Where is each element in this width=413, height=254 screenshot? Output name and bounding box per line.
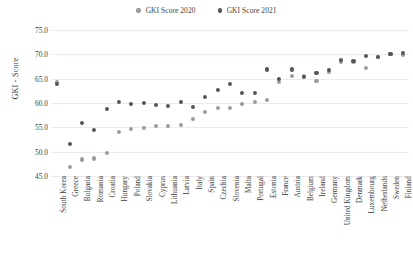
- data-point: [240, 91, 244, 95]
- data-point: [228, 106, 232, 110]
- y-axis-title: GKI - Score: [11, 44, 20, 114]
- data-point: [364, 66, 368, 70]
- data-point: [253, 91, 257, 95]
- data-point: [191, 117, 195, 121]
- x-tick-poland: Poland: [134, 176, 142, 196]
- x-tick-croatia: Croatia: [109, 176, 117, 198]
- data-point: [92, 156, 96, 160]
- data-point: [142, 126, 146, 130]
- legend-label-gki-2020: GKI Score 2020: [146, 6, 196, 15]
- data-point: [80, 121, 84, 125]
- x-tick-greece: Greece: [72, 176, 80, 197]
- data-point: [166, 104, 170, 108]
- x-tick-luxembourg: Luxembourg: [368, 176, 376, 214]
- legend-item-gki-2021[interactable]: GKI Score 2021: [218, 6, 277, 15]
- x-tick-malta: Malta: [245, 176, 253, 193]
- x-tick-united-kingdom: United Kingdom: [344, 176, 352, 225]
- data-point: [142, 101, 146, 105]
- x-tick-latvia: Latvia: [183, 176, 191, 195]
- data-point: [376, 55, 380, 59]
- gridline: [51, 127, 409, 128]
- legend-label-gki-2021: GKI Score 2021: [227, 6, 277, 15]
- x-tick-denmark: Denmark: [356, 176, 364, 203]
- y-tick-60-0: 60.0: [22, 99, 48, 108]
- x-tick-czechia: Czechia: [220, 176, 228, 200]
- x-tick-hungary: Hungary: [121, 176, 129, 202]
- data-point: [216, 88, 220, 92]
- x-tick-austria: Austria: [294, 176, 302, 198]
- x-axis-tick-labels: South KoreaGreeceBulgariaRomaniaCroatiaH…: [51, 176, 409, 254]
- data-point: [364, 54, 368, 58]
- x-tick-romania: Romania: [97, 176, 105, 202]
- gridline: [51, 103, 409, 104]
- y-tick-70-0: 70.0: [22, 50, 48, 59]
- data-point: [290, 67, 294, 71]
- x-tick-south-korea: South Korea: [60, 176, 68, 213]
- x-tick-finland: Finland: [405, 176, 413, 198]
- data-point: [290, 74, 294, 78]
- gridline: [51, 79, 409, 80]
- x-tick-france: France: [282, 176, 290, 196]
- x-tick-lithuania: Lithuania: [171, 176, 179, 204]
- data-point: [80, 157, 84, 161]
- data-point: [67, 142, 71, 146]
- x-tick-ireland: Ireland: [319, 176, 327, 197]
- chart-legend: GKI Score 2020 GKI Score 2021: [0, 6, 413, 15]
- data-point: [265, 98, 269, 102]
- data-point: [129, 127, 133, 131]
- data-point: [117, 130, 121, 134]
- data-point: [265, 67, 269, 71]
- x-tick-estonia: Estonia: [270, 176, 278, 198]
- y-axis-tick-labels: 45.050.055.060.065.070.075.0: [22, 30, 48, 176]
- legend-marker-gki-2021: [218, 8, 222, 12]
- x-tick-cyprus: Cyprus: [159, 176, 167, 197]
- x-tick-italy: Italy: [196, 176, 204, 189]
- data-point: [203, 95, 207, 99]
- data-point: [55, 81, 59, 85]
- x-tick-germany: Germany: [331, 176, 339, 203]
- x-tick-sweden: Sweden: [393, 176, 401, 199]
- y-tick-75-0: 75.0: [22, 26, 48, 35]
- x-tick-spain: Spain: [208, 176, 216, 193]
- data-point: [314, 79, 318, 83]
- plot-area: [51, 30, 409, 176]
- data-point: [314, 71, 318, 75]
- x-tick-belgium: Belgium: [307, 176, 315, 201]
- data-point: [105, 107, 109, 111]
- data-point: [240, 102, 244, 106]
- y-tick-50-0: 50.0: [22, 147, 48, 156]
- gridline: [51, 54, 409, 55]
- data-point: [67, 165, 71, 169]
- x-tick-slovakia: Slovakia: [146, 176, 154, 202]
- data-point: [92, 128, 96, 132]
- x-tick-netherlands: Netherlands: [381, 176, 389, 211]
- scatter-chart: GKI Score 2020 GKI Score 2021 GKI - Scor…: [0, 0, 413, 254]
- data-point: [191, 105, 195, 109]
- x-tick-slovenia: Slovenia: [233, 176, 241, 202]
- data-point: [216, 106, 220, 110]
- y-tick-55-0: 55.0: [22, 123, 48, 132]
- y-tick-45-0: 45.0: [22, 172, 48, 181]
- y-tick-65-0: 65.0: [22, 74, 48, 83]
- x-tick-bulgaria: Bulgaria: [84, 176, 92, 201]
- legend-item-gki-2020[interactable]: GKI Score 2020: [136, 6, 195, 15]
- x-tick-portugal: Portugal: [257, 176, 265, 201]
- data-point: [203, 110, 207, 114]
- data-point: [129, 102, 133, 106]
- data-point: [228, 82, 232, 86]
- legend-marker-gki-2020: [136, 8, 140, 12]
- data-point: [105, 151, 109, 155]
- gridline: [51, 30, 409, 31]
- data-point: [154, 103, 158, 107]
